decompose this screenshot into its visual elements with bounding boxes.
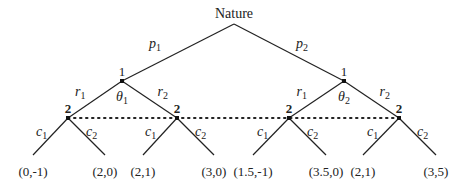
player-1-move-label: r1 xyxy=(297,84,307,101)
nature-node-label: Nature xyxy=(215,6,253,21)
nature-move-label: p1 xyxy=(148,36,161,53)
player-2-move-label: c1 xyxy=(257,124,268,141)
nature-edge xyxy=(122,24,234,81)
payoff-label: (1.5,-1) xyxy=(234,164,273,179)
player-1-node xyxy=(120,79,124,83)
player-2-node xyxy=(66,116,70,120)
payoff-label: (3,0) xyxy=(202,164,227,179)
player-2-move-label: c2 xyxy=(417,124,428,141)
player-2-move-label: c2 xyxy=(307,124,318,141)
player-1-move-edge xyxy=(122,81,177,118)
player-2-move-label: c2 xyxy=(86,124,97,141)
player-2-node xyxy=(397,116,401,120)
type-label: θ2 xyxy=(338,89,350,106)
player-2-move-label: c1 xyxy=(145,124,156,141)
tree-labels: Naturep11θ1r1r2p21θ2r1r22c1(0,-1)c2(2,0)… xyxy=(18,6,448,179)
player-2-label: 2 xyxy=(65,101,72,116)
player-2-label: 2 xyxy=(174,101,181,116)
game-tree-diagram: Naturep11θ1r1r2p21θ2r1r22c1(0,-1)c2(2,0)… xyxy=(0,0,470,192)
player-1-move-label: r1 xyxy=(75,84,85,101)
player-2-label: 2 xyxy=(286,101,293,116)
player-2-move-label: c2 xyxy=(195,124,206,141)
player-1-label: 1 xyxy=(341,64,348,79)
player-2-node xyxy=(175,116,179,120)
payoff-label: (2,1) xyxy=(131,164,156,179)
player-2-move-label: c1 xyxy=(367,124,378,141)
player-2-move-label: c1 xyxy=(36,124,47,141)
payoff-label: (2,1) xyxy=(351,164,376,179)
player-1-move-edge xyxy=(344,81,399,118)
payoff-label: (3,5) xyxy=(424,164,449,179)
nature-edge xyxy=(234,24,344,81)
nature-move-label: p2 xyxy=(295,36,308,53)
player-2-label: 2 xyxy=(396,101,403,116)
player-1-node xyxy=(342,79,346,83)
payoff-label: (2,0) xyxy=(93,164,118,179)
player-1-move-label: r2 xyxy=(380,84,390,101)
payoff-label: (3.5,0) xyxy=(309,164,344,179)
player-1-move-label: r2 xyxy=(158,84,168,101)
payoff-label: (0,-1) xyxy=(18,164,47,179)
type-label: θ1 xyxy=(116,89,128,106)
player-1-label: 1 xyxy=(119,64,126,79)
player-2-node xyxy=(287,116,291,120)
